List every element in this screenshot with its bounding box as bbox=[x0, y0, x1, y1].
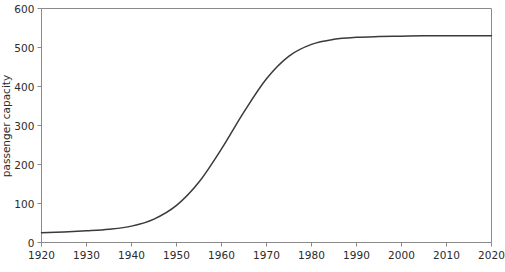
x-tick-label: 1980 bbox=[298, 249, 325, 261]
y-tick-label: 600 bbox=[0, 3, 35, 15]
data-line-passenger-capacity bbox=[42, 36, 492, 233]
x-tick-label: 2000 bbox=[388, 249, 415, 261]
y-axis-ticks bbox=[38, 9, 42, 243]
y-tick-label: 100 bbox=[0, 198, 35, 210]
y-tick-label: 0 bbox=[0, 237, 35, 249]
x-tick-label: 1940 bbox=[118, 249, 145, 261]
x-tick-label: 1930 bbox=[73, 249, 100, 261]
plot-frame bbox=[42, 9, 492, 243]
y-tick-label: 400 bbox=[0, 81, 35, 93]
x-tick-label: 2020 bbox=[478, 249, 505, 261]
x-tick-label: 1920 bbox=[28, 249, 55, 261]
y-tick-label: 500 bbox=[0, 42, 35, 54]
x-tick-label: 2010 bbox=[433, 249, 460, 261]
y-tick-label: 300 bbox=[0, 120, 35, 132]
x-tick-label: 1960 bbox=[208, 249, 235, 261]
axis-frame bbox=[42, 9, 492, 243]
y-tick-label: 200 bbox=[0, 159, 35, 171]
x-tick-label: 1950 bbox=[163, 249, 190, 261]
x-tick-label: 1990 bbox=[343, 249, 370, 261]
x-axis-ticks bbox=[42, 243, 492, 247]
x-tick-label: 1970 bbox=[253, 249, 280, 261]
